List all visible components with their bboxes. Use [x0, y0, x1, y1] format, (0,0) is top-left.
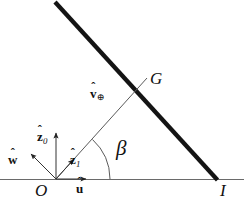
vector-z1-subscript: 1: [76, 159, 80, 169]
vector-label-z0: ˆz0: [37, 130, 47, 143]
point-label-G: G: [150, 70, 162, 87]
hat-accent-z1: ˆ: [71, 147, 75, 159]
vector-v-subscript-earth: ⊕: [97, 92, 105, 102]
vector-label-w: ˆw: [8, 153, 17, 166]
hat-accent-v: ˆ: [91, 81, 95, 93]
point-label-O: O: [35, 182, 47, 199]
hat-accent-w: ˆ: [11, 147, 15, 159]
v-hat-group: ˆv: [90, 87, 97, 100]
z0-hat-group: ˆz: [37, 130, 43, 143]
u-hat-group: ˆu: [76, 182, 83, 195]
hat-accent-z0: ˆ: [38, 124, 42, 136]
vector-label-u: ˆu: [76, 182, 83, 195]
vector-label-v-earth: ˆv⊕: [90, 87, 104, 100]
angle-label-beta: β: [116, 138, 126, 159]
z1-hat-group: ˆz: [70, 153, 76, 166]
figure-canvas: [0, 0, 244, 207]
unit-vector-w-arrow: [31, 154, 56, 179]
vector-z0-subscript: 0: [43, 136, 47, 146]
geometry-figure: G I O β ˆv⊕ ˆz0 ˆz1 ˆw ˆu: [0, 0, 244, 207]
vector-label-z1: ˆz1: [70, 153, 80, 166]
angle-arc-beta: [93, 140, 111, 180]
point-label-I: I: [220, 182, 226, 199]
hat-accent-u: ˆ: [78, 176, 82, 188]
w-hat-group: ˆw: [8, 153, 17, 166]
